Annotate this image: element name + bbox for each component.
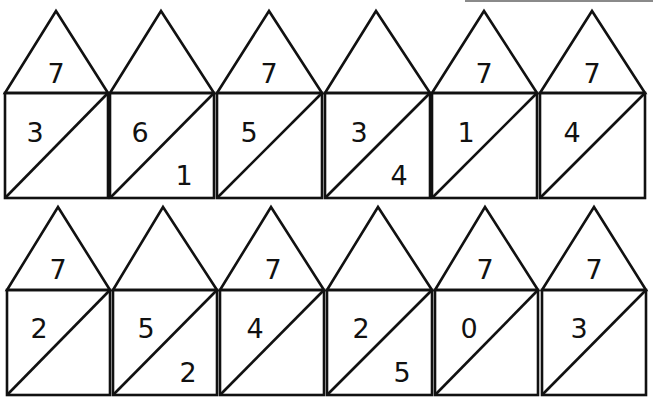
roof-number: 7 xyxy=(264,254,281,285)
house-r2-c2 xyxy=(113,207,217,395)
roof-number: 7 xyxy=(476,254,493,285)
roof-number: 7 xyxy=(583,58,600,89)
house-r2-c1 xyxy=(7,207,110,395)
roof-number: 7 xyxy=(585,254,602,285)
house-r1-c1 xyxy=(5,11,108,198)
house-r2-c4 xyxy=(327,207,432,395)
left-number: 0 xyxy=(460,313,477,344)
roof-number: 7 xyxy=(260,58,277,89)
left-number: 2 xyxy=(30,313,47,344)
left-number: 6 xyxy=(131,117,148,148)
house-r1-c4 xyxy=(325,11,430,198)
house-r1-c2 xyxy=(110,11,214,198)
roof-number: 7 xyxy=(475,58,492,89)
right-number: 5 xyxy=(393,357,410,388)
right-number: 4 xyxy=(390,160,407,191)
house-r1-c6 xyxy=(540,11,645,198)
left-number: 4 xyxy=(246,313,263,344)
left-number: 1 xyxy=(457,117,474,148)
roof-number: 7 xyxy=(47,58,64,89)
left-number: 4 xyxy=(563,117,580,148)
roof-number: 7 xyxy=(49,254,66,285)
house-r2-c3 xyxy=(220,207,324,395)
house-r1-c5 xyxy=(432,11,537,198)
left-number: 3 xyxy=(350,117,367,148)
house-r2-c5 xyxy=(435,207,538,395)
left-number: 2 xyxy=(352,313,369,344)
left-number: 5 xyxy=(137,313,154,344)
right-number: 2 xyxy=(179,357,196,388)
left-number: 3 xyxy=(570,313,587,344)
right-number: 1 xyxy=(175,160,192,191)
number-house-worksheet: 7 3 6 1 7 5 3 4 7 1 7 4 7 2 5 2 7 4 2 5 … xyxy=(0,0,653,405)
left-number: 3 xyxy=(26,117,43,148)
house-r1-c3 xyxy=(217,11,322,198)
left-number: 5 xyxy=(240,117,257,148)
house-r2-c6 xyxy=(542,207,646,395)
